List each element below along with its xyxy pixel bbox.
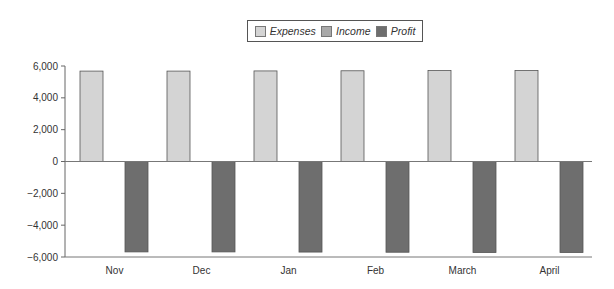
x-tick-label: Nov (106, 265, 124, 276)
bar-profit (560, 162, 583, 253)
x-tick-label: March (449, 265, 477, 276)
bar-profit (212, 162, 235, 252)
bar-chart: 6,0004,0002,0000−2,000−4,000−6,000NovDec… (0, 0, 614, 289)
y-tick-label: 2,000 (33, 124, 58, 135)
x-tick-label: April (539, 265, 559, 276)
x-tick-label: Jan (280, 265, 296, 276)
bar-expenses (167, 71, 190, 161)
x-tick-label: Feb (367, 265, 385, 276)
x-tick-label: Dec (193, 265, 211, 276)
y-tick-label: 0 (52, 156, 58, 167)
y-tick-label: −2,000 (27, 188, 58, 199)
bar-expenses (80, 71, 103, 161)
bar-profit (299, 162, 322, 253)
y-tick-label: −6,000 (27, 252, 58, 263)
bar-expenses (254, 71, 277, 162)
bar-expenses (515, 70, 538, 161)
bar-expenses (428, 70, 451, 161)
y-tick-label: 6,000 (33, 61, 58, 72)
bar-profit (473, 162, 496, 253)
bar-expenses (341, 71, 364, 162)
bar-profit (386, 162, 409, 253)
bar-profit (125, 162, 148, 252)
y-tick-label: −4,000 (27, 220, 58, 231)
y-tick-label: 4,000 (33, 92, 58, 103)
